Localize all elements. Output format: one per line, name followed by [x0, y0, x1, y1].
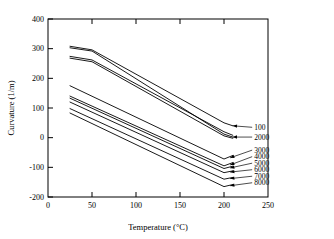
- series-labels: 1002000300040005000600070008000: [254, 123, 269, 187]
- x-tick-label: 200: [218, 201, 230, 210]
- series-label-2000: 2000: [254, 133, 269, 142]
- series-label-8000: 8000: [254, 178, 269, 187]
- y-tick-label: 0: [40, 133, 44, 142]
- x-tick-label: 0: [46, 201, 50, 210]
- y-tick-label: -200: [29, 193, 44, 202]
- y-tick-label: 400: [32, 15, 44, 24]
- x-tick-label: 100: [130, 201, 142, 210]
- y-tick-label: 100: [32, 104, 44, 113]
- x-axis-title: Temperature (°C): [128, 222, 188, 232]
- chart-figure: -200-1000100200300400 050100150200250 10…: [0, 0, 334, 239]
- y-tick-label: 300: [32, 44, 44, 53]
- series-label-100: 100: [254, 123, 266, 132]
- y-tick-label: 200: [32, 74, 44, 83]
- y-tick-label: -100: [29, 163, 44, 172]
- chart-background: [0, 0, 334, 239]
- y-axis-title: Curvature (1/m): [6, 80, 16, 135]
- x-tick-label: 150: [174, 201, 186, 210]
- x-tick-label: 50: [88, 201, 96, 210]
- x-tick-label: 250: [262, 201, 274, 210]
- curvature-temperature-line-chart: -200-1000100200300400 050100150200250 10…: [0, 0, 334, 239]
